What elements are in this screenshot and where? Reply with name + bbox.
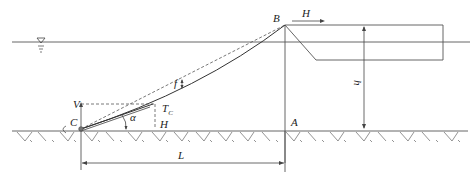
l-dimension (82, 161, 284, 165)
anchor-icon (63, 126, 66, 133)
label-c: C (70, 116, 78, 128)
label-t: TC (162, 102, 173, 117)
label-h-bottom: H (159, 118, 169, 130)
label-v: V (73, 98, 81, 110)
chord-line (81, 25, 285, 129)
h-dimension (362, 26, 366, 129)
label-f: f (174, 77, 179, 89)
seabed-hatching (17, 132, 460, 142)
water-level-icon (37, 38, 45, 52)
label-h-depth: h (352, 80, 364, 86)
label-alpha: α (130, 111, 136, 123)
h-force-arrow (292, 19, 325, 23)
label-a: A (290, 116, 298, 128)
catenary-line (81, 25, 285, 129)
label-h-top: H (301, 7, 311, 19)
label-b: B (273, 12, 280, 24)
mooring-diagram: H B h f V TC H α C A (0, 0, 476, 181)
tangent-line (81, 104, 153, 129)
diagram-svg: H B h f V TC H α C A (0, 0, 476, 181)
label-l: L (177, 149, 184, 161)
tangent-line-2 (81, 107, 150, 131)
alpha-angle-arc (122, 115, 128, 130)
